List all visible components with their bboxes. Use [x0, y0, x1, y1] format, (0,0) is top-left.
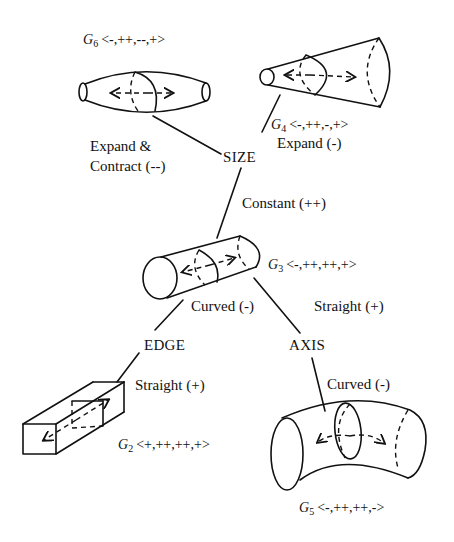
geon-name: G [268, 257, 278, 272]
geon-subscript: 4 [281, 123, 286, 134]
edge-label-line1: Expand & [90, 138, 165, 155]
geon-subscript: 3 [278, 263, 283, 274]
geon-name: G [299, 500, 309, 515]
edge-label-expand-contract: Expand & Contract (--) [90, 138, 165, 174]
edge-label-curved-axis: Curved (-) [327, 376, 390, 393]
geon-g3-shape [143, 236, 260, 299]
geon-code: <-,++,++,+> [286, 257, 356, 272]
geon-g2-label: G2<+,++,++,+> [118, 437, 210, 452]
geon-g6-shape [79, 72, 210, 113]
node-edge: EDGE [144, 337, 185, 354]
geon-diagram-canvas [0, 0, 454, 542]
geon-code: <-,++,-,+> [289, 117, 348, 132]
node-size: SIZE [223, 149, 256, 166]
link-axis-g5 [312, 358, 325, 411]
edge-label-curved-edge: Curved (-) [191, 298, 254, 315]
edge-label-expand: Expand (-) [277, 135, 342, 152]
geon-subscript: 2 [128, 443, 133, 454]
node-axis: AXIS [289, 337, 325, 354]
geon-subscript: 6 [93, 38, 98, 49]
geon-g5-label: G5<-,++,++,-> [299, 500, 384, 515]
link-g3-axis [254, 278, 300, 333]
geon-g3-label: G3<-,++,++,+> [268, 257, 357, 272]
edge-label-line2: Contract (--) [90, 158, 165, 175]
geon-g4-label: G4<-,++,-,+> [271, 117, 348, 132]
edge-label-straight-axis: Straight (+) [314, 298, 384, 315]
link-size-g3 [217, 168, 241, 238]
geon-code: <-,++,--,+> [101, 32, 165, 47]
geon-code: <+,++,++,+> [136, 437, 210, 452]
link-g3-edge [155, 300, 183, 330]
geon-name: G [271, 117, 281, 132]
geon-g2-shape [23, 382, 124, 454]
geon-g5-shape [271, 401, 426, 490]
geon-name: G [83, 32, 93, 47]
geon-g6-label: G6<-,++,--,+> [83, 32, 165, 47]
geon-name: G [118, 437, 128, 452]
edge-label-constant: Constant (++) [242, 195, 326, 212]
edge-label-straight-edge: Straight (+) [135, 377, 205, 394]
geon-subscript: 5 [309, 506, 314, 517]
geon-code: <-,++,++,-> [317, 500, 384, 515]
